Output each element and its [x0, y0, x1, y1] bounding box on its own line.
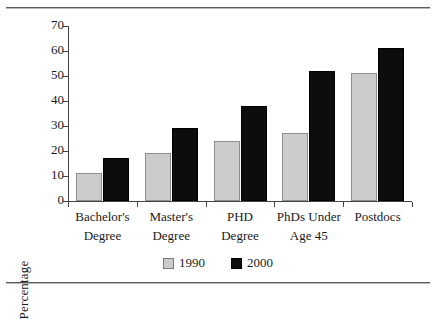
x-axis-label-line: PHD [206, 207, 275, 226]
bottom-divider-rule [6, 282, 430, 284]
x-axis-line [68, 201, 412, 202]
top-divider-rule [6, 7, 430, 9]
y-tick-label: 0 [58, 192, 65, 208]
x-axis-label-line: Bachelor's [68, 207, 137, 226]
x-axis-label: Postdocs [343, 207, 412, 226]
x-axis-label-line: Degree [206, 226, 275, 245]
bar-group [282, 26, 335, 201]
bar-1990 [282, 133, 308, 201]
bar-group [76, 26, 129, 201]
x-tick-mark [412, 202, 413, 207]
legend-label: 1990 [179, 256, 205, 270]
y-tick-label: 30 [51, 117, 64, 133]
bar-1990 [214, 141, 240, 201]
chart-legend: 19902000 [0, 256, 436, 270]
bar-group [351, 26, 404, 201]
x-axis-label-line: Age 45 [274, 226, 343, 245]
x-axis-label-line: PhDs Under [274, 207, 343, 226]
x-axis-label: PHDDegree [206, 207, 275, 245]
bar-2000 [241, 106, 267, 201]
legend-swatch-icon [163, 258, 174, 269]
x-axis-label-line: Degree [68, 226, 137, 245]
bar-group [214, 26, 267, 201]
y-tick-label: 20 [51, 142, 64, 158]
bar-group [145, 26, 198, 201]
x-axis-label: PhDs UnderAge 45 [274, 207, 343, 245]
bar-1990 [351, 73, 377, 201]
plot-area: 010203040506070 [68, 26, 412, 202]
legend-swatch-icon [231, 258, 242, 269]
bar-1990 [76, 173, 102, 201]
bar-2000 [172, 128, 198, 201]
x-axis-label: Master'sDegree [137, 207, 206, 245]
bar-2000 [309, 71, 335, 201]
bar-1990 [145, 153, 171, 201]
y-tick-label: 70 [51, 17, 64, 33]
x-axis-label-line: Degree [137, 226, 206, 245]
y-tick-label: 10 [51, 167, 64, 183]
x-axis-label-line: Master's [137, 207, 206, 226]
y-tick-label: 50 [51, 67, 64, 83]
y-tick-label: 40 [51, 92, 64, 108]
legend-item: 1990 [163, 256, 205, 270]
x-axis-labels: Bachelor'sDegreeMaster'sDegreePHDDegreeP… [68, 207, 412, 249]
y-axis-line [68, 26, 69, 202]
legend-label: 2000 [247, 256, 273, 270]
x-axis-label-line: Postdocs [343, 207, 412, 226]
y-tick-label: 60 [51, 42, 64, 58]
x-axis-label: Bachelor'sDegree [68, 207, 137, 245]
bar-2000 [378, 48, 404, 201]
legend-item: 2000 [231, 256, 273, 270]
bar-2000 [103, 158, 129, 201]
